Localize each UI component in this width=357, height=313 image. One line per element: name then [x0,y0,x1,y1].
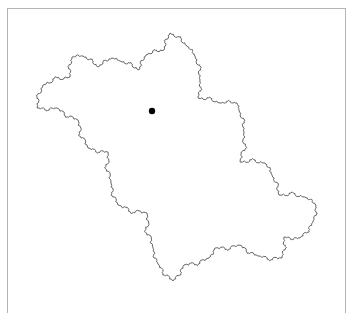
fractal-outline [36,33,317,281]
marker-point [149,108,155,114]
